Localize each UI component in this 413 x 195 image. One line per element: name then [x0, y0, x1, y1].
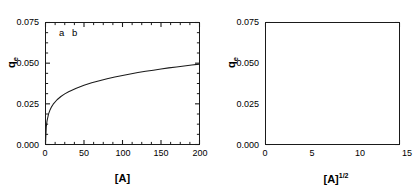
plot-frame-panel-b [265, 22, 400, 145]
y-tick-label-b-1: 0.050 [225, 58, 259, 68]
x-tick-label-b-0: 0 [252, 148, 278, 158]
x-tick-label-b-2: 10 [347, 148, 373, 158]
figure-container: qe [A] 0.075 0.050 0.025 0.000 0 50 100 … [0, 0, 413, 195]
x-tick-label-b-3: 15 [394, 148, 413, 158]
plot-canvas-panel-a [0, 0, 206, 195]
x-axis-label-base-b: [A] [323, 173, 338, 185]
x-axis-label-panel-b: [A]1/2 [265, 172, 407, 185]
panel-letter-b: b [72, 27, 77, 38]
y-tick-label-b-0: 0.075 [225, 17, 259, 27]
x-axis-label-exponent-b: 1/2 [339, 172, 349, 179]
y-tick-label-b-2: 0.025 [225, 99, 259, 109]
x-tick-label-b-1: 5 [299, 148, 325, 158]
panel-a: qe [A] 0.075 0.050 0.025 0.000 0 50 100 … [0, 0, 206, 195]
